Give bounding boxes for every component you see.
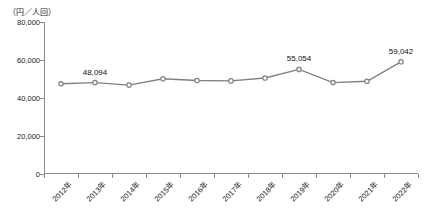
- x-tick-label: 2018年: [253, 179, 278, 204]
- x-tick-mark: [282, 174, 283, 178]
- y-tick-label: 60,000: [17, 56, 40, 65]
- x-tick-label: 2012年: [49, 179, 74, 204]
- x-tick-label: 2022年: [389, 179, 414, 204]
- data-point-marker: [297, 67, 301, 71]
- y-tick-label: 80,000: [17, 18, 40, 27]
- y-tick-label: 20,000: [17, 132, 40, 141]
- data-point-marker: [331, 80, 335, 84]
- x-tick-mark: [180, 174, 181, 178]
- data-point-label: 59,042: [389, 47, 413, 56]
- data-point-marker: [127, 83, 131, 87]
- data-point-marker: [365, 79, 369, 83]
- x-tick-mark: [44, 174, 45, 178]
- data-point-marker: [93, 80, 97, 84]
- data-point-label: 55,054: [287, 54, 311, 63]
- x-tick-label: 2016年: [185, 179, 210, 204]
- data-point-marker: [263, 76, 267, 80]
- x-tick-label: 2015年: [151, 179, 176, 204]
- series-line: [44, 22, 418, 174]
- data-point-marker: [195, 78, 199, 82]
- x-tick-mark: [384, 174, 385, 178]
- x-tick-mark: [248, 174, 249, 178]
- x-tick-mark: [78, 174, 79, 178]
- data-point-marker: [399, 60, 403, 64]
- x-tick-label: 2014年: [117, 179, 142, 204]
- x-tick-label: 2020年: [321, 179, 346, 204]
- data-point-marker: [59, 82, 63, 86]
- y-axis-unit-label: （円／人回）: [8, 6, 56, 17]
- data-point-marker: [161, 77, 165, 81]
- y-tick-label: 40,000: [17, 94, 40, 103]
- x-tick-label: 2013年: [83, 179, 108, 204]
- x-tick-mark: [316, 174, 317, 178]
- x-tick-mark: [418, 174, 419, 178]
- y-tick-label: 0: [36, 170, 40, 179]
- data-point-marker: [229, 79, 233, 83]
- x-tick-mark: [214, 174, 215, 178]
- x-tick-mark: [112, 174, 113, 178]
- x-tick-mark: [146, 174, 147, 178]
- plot-area: 020,00040,00060,00080,000 2012年2013年2014…: [44, 22, 418, 174]
- x-tick-mark: [350, 174, 351, 178]
- data-point-label: 48,094: [83, 68, 107, 77]
- line-chart: （円／人回） 020,00040,00060,00080,000 2012年20…: [0, 0, 431, 215]
- x-tick-label: 2017年: [219, 179, 244, 204]
- x-tick-label: 2019年: [287, 179, 312, 204]
- x-tick-label: 2021年: [355, 179, 380, 204]
